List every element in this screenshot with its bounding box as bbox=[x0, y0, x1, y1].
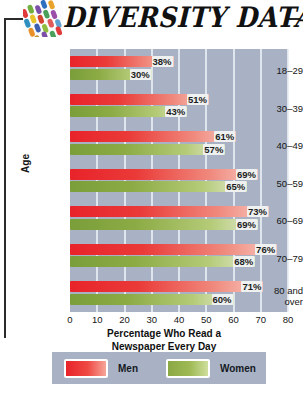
x-tick-label: 10 bbox=[87, 314, 107, 325]
legend-label-women: Women bbox=[220, 363, 256, 374]
category-label-line: 70–79 bbox=[237, 254, 303, 264]
x-tick-label: 50 bbox=[196, 314, 216, 325]
bar-value-men: 61% bbox=[214, 131, 235, 142]
chart-legend: Men Women bbox=[52, 352, 266, 384]
bar-value-men: 51% bbox=[187, 94, 208, 105]
category-label: 18–29 bbox=[237, 66, 303, 76]
y-axis-title: Age bbox=[20, 134, 31, 194]
category-label-line: 50–59 bbox=[237, 179, 303, 189]
bar-men bbox=[70, 169, 258, 180]
category-label-line: 18–29 bbox=[237, 66, 303, 76]
category-label: 40–49 bbox=[237, 141, 303, 151]
bar-women bbox=[70, 181, 247, 192]
bar-chart: Age 38%30%51%43%61%57%69%65%73%69%76%68%… bbox=[0, 40, 303, 340]
x-tick-label: 0 bbox=[60, 314, 80, 325]
category-label: 70–79 bbox=[237, 254, 303, 264]
bar-value-women: 60% bbox=[212, 294, 233, 305]
x-axis-title-line1: Percentage Who Read a bbox=[36, 328, 292, 341]
legend-swatch-men bbox=[64, 359, 108, 378]
bar-women bbox=[70, 256, 255, 267]
bar-women bbox=[70, 144, 225, 155]
bar-women bbox=[70, 219, 258, 230]
legend-swatch-women bbox=[166, 359, 210, 378]
bar-men bbox=[70, 281, 263, 292]
bar-value-men: 38% bbox=[152, 56, 173, 67]
page-title: DIVERSITY DATA bbox=[64, 1, 303, 33]
x-axis-title: Percentage Who Read a Newspaper Every Da… bbox=[36, 328, 292, 353]
category-label: 50–59 bbox=[237, 179, 303, 189]
bar-value-women: 43% bbox=[165, 106, 186, 117]
category-label: 30–39 bbox=[237, 104, 303, 114]
legend-label-men: Men bbox=[118, 363, 138, 374]
x-tick-label: 30 bbox=[142, 314, 162, 325]
x-tick-label: 70 bbox=[251, 314, 271, 325]
page-header: DIVERSITY DATA bbox=[0, 0, 303, 40]
bar-value-women: 30% bbox=[130, 69, 151, 80]
x-tick-label: 20 bbox=[115, 314, 135, 325]
category-label: 60–69 bbox=[237, 216, 303, 226]
category-label-line: 60–69 bbox=[237, 216, 303, 226]
bar-men bbox=[70, 131, 236, 142]
category-label: 80 andover bbox=[237, 286, 303, 307]
x-tick-label: 80 bbox=[278, 314, 298, 325]
x-axis-ticks: 01020304050607080 bbox=[70, 314, 288, 326]
legend-item-women: Women bbox=[166, 359, 256, 378]
category-label-line: over bbox=[237, 297, 303, 308]
x-tick-label: 40 bbox=[169, 314, 189, 325]
category-label-line: 30–39 bbox=[237, 104, 303, 114]
bar-women bbox=[70, 294, 234, 305]
x-tick-label: 60 bbox=[224, 314, 244, 325]
legend-item-men: Men bbox=[64, 359, 138, 378]
mosaic-tiles-icon bbox=[23, 0, 63, 37]
category-label-line: 40–49 bbox=[237, 141, 303, 151]
bar-value-women: 57% bbox=[203, 144, 224, 155]
